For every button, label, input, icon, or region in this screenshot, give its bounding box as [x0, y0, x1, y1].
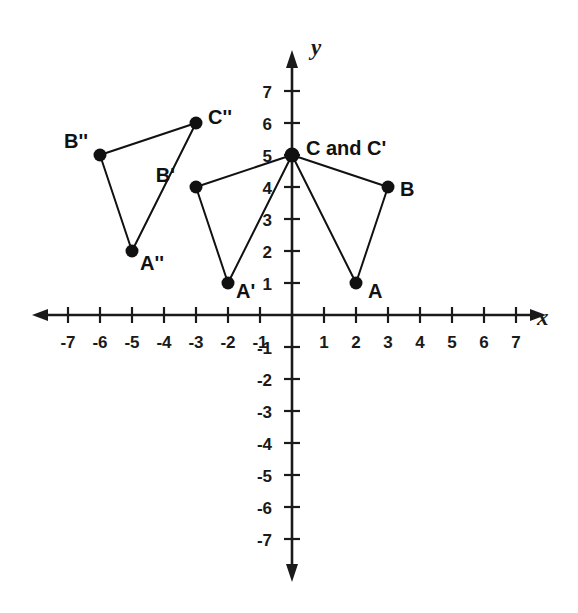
x-tick-label: 2: [351, 333, 360, 352]
x-tick-label: 5: [447, 333, 456, 352]
triangle-a-dprime-outline: [100, 123, 196, 251]
x-tick-label: -5: [124, 333, 139, 352]
label-b-prime: B': [156, 164, 175, 186]
x-axis-left-arrowhead: [32, 309, 48, 321]
x-axis: [32, 309, 546, 321]
x-tick-label: 1: [319, 333, 328, 352]
label-b-dprime: B'': [64, 130, 88, 152]
x-tick-label: 4: [415, 333, 425, 352]
triangle-a-prime-outline: [196, 155, 292, 283]
y-tick-label: -6: [257, 499, 272, 518]
y-axis-top-arrowhead: [286, 50, 298, 68]
triangle-abc: [292, 155, 395, 290]
vertex-a-prime-dot: [222, 277, 235, 290]
coordinate-plane-figure: y x -7 -6 -5 -4 -3 -2 -1 1 2 3 4 5 6 7: [0, 0, 578, 613]
vertex-b-dprime-dot: [94, 149, 107, 162]
y-tick-label: -4: [257, 435, 273, 454]
y-tick-label: 3: [263, 211, 272, 230]
triangle-a-dprime-b-dprime-c-dprime: [94, 117, 203, 258]
label-a-prime: A': [236, 280, 255, 302]
y-tick-label: -7: [257, 531, 272, 550]
triangle-a-prime-b-prime-c-prime: [190, 155, 293, 290]
vertex-c-dprime-dot: [190, 117, 203, 130]
vertex-b-dot: [382, 181, 395, 194]
x-tick-label: 3: [383, 333, 392, 352]
x-tick-label: -2: [220, 333, 235, 352]
y-tick-label: -2: [257, 371, 272, 390]
y-tick-label: -1: [257, 339, 272, 358]
x-tick-label: -7: [60, 333, 75, 352]
x-tick-label: -4: [156, 333, 172, 352]
x-axis-label: x: [536, 305, 549, 330]
y-tick-label: 6: [263, 115, 272, 134]
vertex-a-dot: [350, 277, 363, 290]
y-tick-label: 1: [263, 275, 272, 294]
label-c-and-c-prime: C and C': [306, 137, 386, 159]
vertex-a-dprime-dot: [126, 245, 139, 258]
vertex-b-prime-dot: [190, 181, 203, 194]
vertex-c-and-c-prime-dot: [285, 148, 300, 163]
y-tick-label: -5: [257, 467, 272, 486]
y-tick-label: 2: [263, 243, 272, 262]
x-axis-tick-labels: -7 -6 -5 -4 -3 -2 -1 1 2 3 4 5 6 7: [60, 333, 520, 352]
triangle-abc-outline: [292, 155, 388, 283]
label-a: A: [368, 280, 382, 302]
x-tick-label: 7: [511, 333, 520, 352]
y-axis-label: y: [308, 35, 322, 60]
y-axis-bottom-arrowhead: [286, 564, 298, 582]
label-b: B: [400, 178, 414, 200]
x-tick-label: -6: [92, 333, 107, 352]
x-tick-label: -3: [188, 333, 203, 352]
label-c-dprime: C'': [208, 106, 232, 128]
y-tick-label: -3: [257, 403, 272, 422]
y-tick-label: 7: [263, 83, 272, 102]
label-a-dprime: A'': [140, 252, 164, 274]
x-tick-label: 6: [479, 333, 488, 352]
